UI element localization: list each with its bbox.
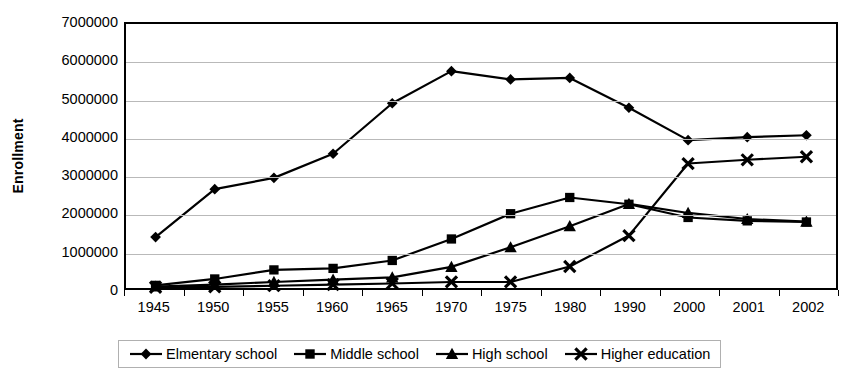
x-tick-mark bbox=[838, 290, 839, 296]
x-tick-label: 2001 bbox=[719, 299, 779, 315]
x-tick-mark bbox=[303, 290, 304, 296]
data-point-square bbox=[269, 265, 278, 274]
x-tick-mark bbox=[719, 290, 720, 296]
data-point-diamond bbox=[141, 349, 152, 360]
x-axis-tick-marks bbox=[124, 290, 838, 298]
gridline bbox=[126, 254, 836, 255]
legend-item[interactable]: High school bbox=[435, 346, 548, 362]
x-tick-mark bbox=[600, 290, 601, 296]
gridline bbox=[126, 101, 836, 102]
legend-item[interactable]: Higher education bbox=[564, 346, 711, 362]
y-tick-label: 2000000 bbox=[22, 206, 118, 220]
enrollment-line-chart: Enrollment 70000006000000500000040000003… bbox=[0, 0, 848, 386]
gridline bbox=[126, 62, 836, 63]
legend-label: Higher education bbox=[601, 346, 711, 362]
legend-marker-triangle-icon bbox=[435, 347, 469, 361]
chart-legend: Elmentary schoolMiddle schoolHigh school… bbox=[118, 340, 721, 368]
legend-label: Elmentary school bbox=[166, 346, 277, 362]
plot-area bbox=[124, 22, 838, 290]
series-high-school bbox=[149, 198, 812, 292]
y-tick-label: 5000000 bbox=[22, 92, 118, 106]
x-tick-mark bbox=[541, 290, 542, 296]
y-axis-tick-labels: 7000000600000050000004000000300000020000… bbox=[22, 14, 118, 298]
data-point-square bbox=[306, 349, 315, 358]
x-tick-mark bbox=[184, 290, 185, 296]
x-tick-label: 1965 bbox=[362, 299, 422, 315]
data-point-diamond bbox=[505, 74, 516, 85]
x-tick-mark bbox=[124, 290, 125, 296]
legend-marker-diamond-icon bbox=[129, 347, 163, 361]
x-tick-label: 1975 bbox=[481, 299, 541, 315]
x-tick-label: 1990 bbox=[600, 299, 660, 315]
x-tick-mark bbox=[481, 290, 482, 296]
data-point-diamond bbox=[624, 102, 635, 113]
x-tick-label: 1980 bbox=[540, 299, 600, 315]
x-tick-label: 1955 bbox=[243, 299, 303, 315]
data-point-diamond bbox=[564, 73, 575, 84]
data-point-square bbox=[388, 256, 397, 265]
x-tick-mark bbox=[422, 290, 423, 296]
y-tick-label: 6000000 bbox=[22, 53, 118, 67]
data-point-cross bbox=[623, 230, 634, 241]
y-tick-label: 0 bbox=[22, 283, 118, 297]
data-point-diamond bbox=[446, 66, 457, 77]
legend-item[interactable]: Middle school bbox=[293, 346, 419, 362]
x-axis-tick-labels: 1945195019551960196519701975198019902000… bbox=[124, 299, 838, 319]
x-tick-mark bbox=[243, 290, 244, 296]
gridline bbox=[126, 177, 836, 178]
data-point-diamond bbox=[742, 132, 753, 143]
x-tick-label: 1960 bbox=[302, 299, 362, 315]
data-point-square bbox=[328, 264, 337, 273]
data-point-square bbox=[565, 193, 574, 202]
gridline bbox=[126, 139, 836, 140]
legend-marker-cross-icon bbox=[564, 347, 598, 361]
x-tick-mark bbox=[660, 290, 661, 296]
data-point-square bbox=[447, 234, 456, 243]
x-tick-label: 2000 bbox=[659, 299, 719, 315]
data-point-diamond bbox=[683, 135, 694, 146]
data-point-square bbox=[506, 209, 515, 218]
y-tick-label: 4000000 bbox=[22, 130, 118, 144]
plot-inner bbox=[126, 24, 836, 288]
legend-label: High school bbox=[472, 346, 548, 362]
x-tick-mark bbox=[779, 290, 780, 296]
legend-label: Middle school bbox=[330, 346, 419, 362]
y-tick-label: 3000000 bbox=[22, 168, 118, 182]
series-layer bbox=[126, 24, 836, 288]
gridline bbox=[126, 215, 836, 216]
x-tick-label: 1950 bbox=[183, 299, 243, 315]
y-tick-label: 1000000 bbox=[22, 245, 118, 259]
legend-marker-square-icon bbox=[293, 347, 327, 361]
y-tick-label: 7000000 bbox=[22, 15, 118, 29]
legend-item[interactable]: Elmentary school bbox=[129, 346, 277, 362]
x-tick-mark bbox=[362, 290, 363, 296]
series-higher-education bbox=[150, 151, 812, 293]
series-middle-school bbox=[151, 193, 811, 290]
x-tick-label: 2002 bbox=[778, 299, 838, 315]
x-tick-label: 1970 bbox=[421, 299, 481, 315]
x-tick-label: 1945 bbox=[124, 299, 184, 315]
